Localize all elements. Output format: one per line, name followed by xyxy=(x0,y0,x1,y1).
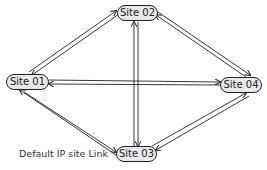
link-site04-to-site02 xyxy=(156,15,246,77)
site-03-node[interactable]: Site 03 xyxy=(116,146,157,162)
link-site02-to-site01 xyxy=(32,14,119,75)
site-01-node[interactable]: Site 01 xyxy=(6,74,49,90)
link-site02-to-site04 xyxy=(158,12,250,75)
link-site01-to-site03 xyxy=(24,92,116,152)
link-site04-to-site01 xyxy=(49,84,220,85)
link-site01-to-site02 xyxy=(29,11,116,72)
site-04-node[interactable]: Site 04 xyxy=(220,77,262,93)
link-site01-to-site04 xyxy=(49,80,220,82)
link-site04-to-site03 xyxy=(156,96,249,150)
link-site03-to-site04 xyxy=(152,93,246,146)
link-site03-to-site01 xyxy=(20,90,116,155)
default-ip-site-link-caption: Default IP site Link xyxy=(19,148,108,159)
site-02-node[interactable]: Site 02 xyxy=(117,5,158,21)
